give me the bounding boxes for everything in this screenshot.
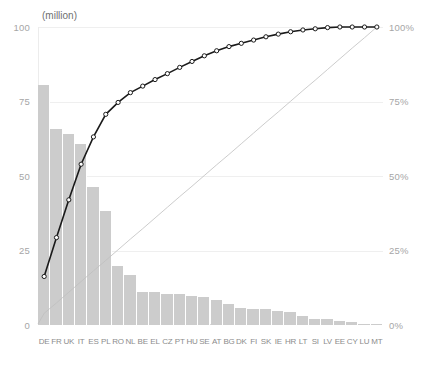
y-axis-tick-75: 75: [2, 96, 30, 107]
cumulative-marker-mt: [375, 25, 379, 29]
cumulative-marker-nl: [128, 91, 132, 95]
cumulative-marker-bg: [227, 45, 231, 49]
cumulative-marker-fr: [54, 235, 58, 239]
cumulative-marker-fi: [252, 38, 256, 42]
line-overlay: [38, 27, 383, 325]
y-axis-tick-100: 100: [2, 22, 30, 33]
cumulative-marker-pl: [104, 112, 108, 116]
cumulative-marker-se: [202, 54, 206, 58]
cumulative-marker-hr: [288, 30, 292, 34]
cumulative-marker-lv: [325, 25, 329, 29]
cumulative-marker-de: [42, 274, 46, 278]
cumulative-marker-es: [91, 135, 95, 139]
cumulative-marker-it: [79, 162, 83, 166]
cumulative-marker-uk: [67, 198, 71, 202]
y2-axis-tick-50: 50%: [389, 171, 409, 182]
cumulative-marker-lu: [362, 25, 366, 29]
cumulative-marker-be: [141, 84, 145, 88]
cumulative-marker-sk: [264, 35, 268, 39]
cumulative-marker-ro: [116, 100, 120, 104]
cumulative-marker-hu: [190, 59, 194, 63]
y2-axis-tick-25: 25%: [389, 245, 409, 256]
cumulative-marker-pt: [178, 65, 182, 69]
cumulative-marker-el: [153, 77, 157, 81]
y2-axis-tick-100: 100%: [389, 22, 414, 33]
cumulative-marker-at: [215, 49, 219, 53]
cumulative-marker-ee: [338, 25, 342, 29]
y2-axis-tick-0: 0%: [389, 320, 403, 331]
cumulative-percent-markers: [42, 25, 379, 279]
x-tick-mt: MT: [369, 337, 385, 346]
y-axis-unit-label: (million): [42, 10, 77, 21]
pareto-chart: (million) 100 75 50 25 0 100% 75% 50% 25…: [0, 0, 425, 368]
cumulative-marker-cz: [165, 72, 169, 76]
cumulative-marker-si: [313, 27, 317, 31]
cumulative-marker-cy: [350, 25, 354, 29]
cumulative-marker-dk: [239, 41, 243, 45]
y-axis-tick-25: 25: [2, 245, 30, 256]
cumulative-marker-lt: [301, 28, 305, 32]
uniform-reference-line: [38, 27, 377, 324]
cumulative-marker-ie: [276, 32, 280, 36]
y-axis-tick-0: 0: [2, 320, 30, 331]
y2-axis-tick-75: 75%: [389, 96, 409, 107]
cumulative-percent-line: [44, 27, 377, 276]
y-axis-tick-50: 50: [2, 171, 30, 182]
plot-area: [38, 27, 383, 325]
x-axis-tick-labels: DEFRUKITESPLRONLBEELCZPTHUSEATBGDKFISKIE…: [38, 337, 383, 351]
